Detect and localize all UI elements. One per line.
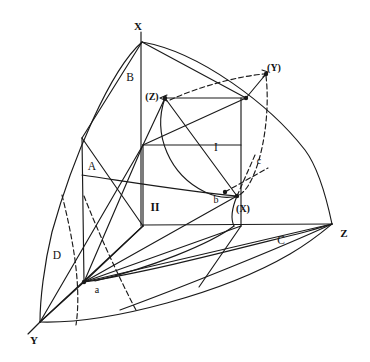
vertex-label-z-paren: (Z) <box>145 92 158 102</box>
point-marker-cube-back-top-right <box>244 96 247 99</box>
vertex-label-x-paren: (X) <box>236 204 250 214</box>
point-marker-a <box>82 280 85 283</box>
point-marker-b <box>223 190 226 193</box>
axis-label-y: Y <box>30 335 38 346</box>
axis-label-x: X <box>134 21 142 32</box>
point-label-a: a <box>95 285 99 295</box>
axis-tick-y-extension <box>28 322 40 334</box>
axis-label-z: Z <box>340 228 347 239</box>
cube-edge-top-diagonal-left <box>165 98 237 196</box>
region-label-d: D <box>53 250 61 262</box>
subdivision-line-left-node-to-a <box>82 138 84 282</box>
spherical-octant-figure: X Y Z (X) (Y) (Z) a b c A B C D I II <box>0 0 370 362</box>
subdivision-arc-z-to-lower-left <box>120 224 332 310</box>
great-arc-from-origin-node-to-x-paren <box>82 175 237 196</box>
region-label-two: II <box>151 202 160 214</box>
great-arc-z-paren-through-b <box>161 98 237 197</box>
dashed-line-x-paren-to-c <box>237 155 255 196</box>
point-label-b: b <box>214 195 219 205</box>
vertex-label-y-paren: (Y) <box>267 63 281 73</box>
axis-line-z <box>143 224 332 225</box>
cube-edge-a-to-x-paren <box>84 196 237 282</box>
region-label-a: A <box>88 161 96 173</box>
point-label-c: c <box>257 156 261 166</box>
point-marker-x-paren <box>235 194 238 197</box>
subdivision-line-x-to-left-node <box>82 42 142 138</box>
region-label-b: B <box>126 72 134 84</box>
point-marker-z-paren <box>163 96 166 99</box>
region-label-c: C <box>277 235 285 247</box>
region-label-one: I <box>214 142 218 154</box>
subdivision-line-x-to-z-node <box>142 42 246 98</box>
subdivision-line-zmid-to-znode <box>246 74 266 98</box>
dashed-arc-left-inner-hidden <box>84 196 137 312</box>
dashed-arc-left-outer-hidden <box>62 195 78 325</box>
diagram-canvas <box>0 0 370 362</box>
